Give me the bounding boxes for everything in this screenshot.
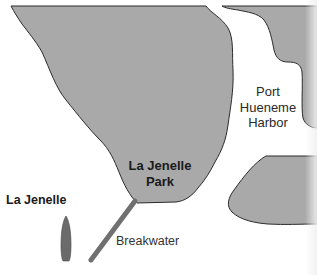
harbor-label-line-2: Hueneme: [238, 100, 298, 116]
harbor-label: Port Hueneme Harbor: [238, 84, 298, 131]
harbor-label-line-3: Harbor: [238, 115, 298, 131]
park-label-line-2: Park: [120, 174, 200, 190]
breakwater-label: Breakwater: [116, 234, 179, 249]
park-label: La Jenelle Park: [120, 158, 200, 189]
ship-la-jenelle-icon: [61, 216, 71, 261]
land-southeast: [228, 156, 317, 224]
ship-label: La Jenelle: [6, 193, 66, 208]
harbor-label-line-1: Port: [238, 84, 298, 100]
page-edge-shadow: [305, 0, 317, 275]
park-label-line-1: La Jenelle: [120, 158, 200, 174]
breakwater: [91, 201, 135, 260]
